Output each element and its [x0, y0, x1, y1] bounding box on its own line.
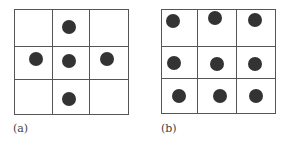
grid-line-vertical: [52, 10, 53, 114]
panel-a-label: (a): [13, 122, 28, 135]
grid-line-horizontal: [162, 46, 275, 47]
dot-b: [166, 14, 180, 28]
dot-a: [29, 52, 43, 66]
dot-a: [62, 92, 76, 106]
dot-b: [172, 89, 186, 103]
dot-a: [62, 54, 76, 68]
dot-a: [100, 52, 114, 66]
dot-b: [208, 11, 222, 25]
grid-line-horizontal: [162, 78, 275, 79]
dot-b: [167, 56, 181, 70]
dot-b: [210, 57, 224, 71]
grid-line-vertical: [89, 10, 90, 114]
panel-b-label: (b): [161, 122, 177, 135]
grid-line-horizontal: [15, 79, 128, 80]
grid-line-horizontal: [15, 46, 128, 47]
grid-line-vertical: [236, 10, 237, 113]
grid-line-vertical: [197, 10, 198, 113]
dot-b: [213, 89, 227, 103]
dot-a: [62, 20, 76, 34]
dot-b: [248, 57, 262, 71]
dot-b: [248, 13, 262, 27]
dot-b: [249, 89, 263, 103]
